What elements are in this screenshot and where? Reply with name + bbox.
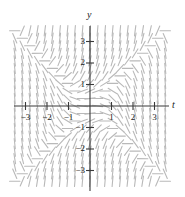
y-tick-label: 3 xyxy=(64,37,85,46)
y-tick-label: 2 xyxy=(64,58,85,67)
slope-field-figure: y t −3−2−1123321−1−2−3 xyxy=(0,0,185,197)
x-tick-label: 2 xyxy=(123,113,143,122)
slope-field-canvas xyxy=(0,0,185,197)
x-tick-label: −3 xyxy=(16,113,36,122)
y-tick-label: −2 xyxy=(64,144,85,153)
x-tick-label: −1 xyxy=(59,113,79,122)
y-tick-label: −3 xyxy=(64,166,85,175)
y-tick-label: −1 xyxy=(64,123,85,132)
x-tick-label: 1 xyxy=(102,113,122,122)
x-tick-label: −2 xyxy=(37,113,57,122)
t-axis-label: t xyxy=(172,100,175,110)
x-tick-label: 3 xyxy=(145,113,165,122)
y-axis-label: y xyxy=(87,10,91,20)
y-tick-label: 1 xyxy=(64,80,85,89)
